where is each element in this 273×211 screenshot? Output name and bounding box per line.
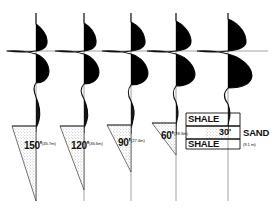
wedge-shape-90 — [107, 125, 131, 172]
thickness-label-90-ft: 90' — [118, 138, 131, 148]
seismic-wedge-model-figure — [0, 0, 273, 211]
wedge-shape-120 — [60, 126, 84, 190]
seismic-trace-90 — [102, 13, 148, 201]
sand-thickness-metric: (9.1 m) — [243, 143, 256, 147]
wedge-fill — [12, 126, 36, 201]
thickness-label-60-ft: 60' — [161, 131, 174, 141]
seismic-trace-30 — [197, 13, 252, 201]
peak-fill-main — [36, 54, 49, 83]
trough-fill-upper — [176, 21, 191, 51]
thickness-label-120-ft: 120' — [71, 141, 89, 151]
seismic-trace-60 — [147, 13, 195, 201]
thickness-label-60-m: (18.3m) — [174, 132, 188, 136]
thickness-label-150-m: (45.7m) — [42, 142, 56, 146]
thickness-label-120-m: (36.6m) — [89, 142, 103, 146]
thickness-label-150-ft: 150' — [24, 141, 42, 151]
sand-label: SAND — [243, 128, 269, 138]
sand-thickness-label: 30' — [219, 128, 231, 137]
shale-label-bottom: SHALE — [188, 139, 219, 149]
thickness-label-90-m: (27.4m) — [131, 139, 145, 143]
wedge-fill — [107, 125, 131, 172]
seismic-trace-120 — [55, 13, 99, 201]
shale-label-top: SHALE — [188, 114, 219, 124]
wedge-fill — [60, 126, 84, 190]
wedge-shape-150 — [12, 126, 36, 201]
